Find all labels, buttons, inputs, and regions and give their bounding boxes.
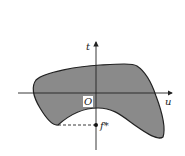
diagram-canvas: O t u f* (0, 0, 185, 156)
u-axis-label: u (165, 96, 171, 107)
f-star-point (94, 123, 98, 127)
feasible-region (33, 64, 164, 138)
t-axis-label: t (86, 41, 91, 52)
f-star-label: f* (99, 120, 109, 131)
diagram-svg: O t u f* (0, 0, 185, 156)
origin-label: O (84, 96, 92, 107)
